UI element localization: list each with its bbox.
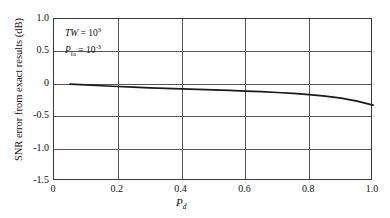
annotation-tw-mantissa: 10 — [88, 28, 98, 38]
plot-area: TW = 103 Pfa = 10-3 — [53, 18, 372, 180]
x-tick-label: 0.8 — [288, 184, 328, 194]
annotation-pfa: Pfa = 10-3 — [65, 40, 101, 60]
annotation-pfa-exponent: -3 — [95, 43, 100, 50]
chart-figure: 1.0 0.5 0 -0.5 -1.0 -1.5 0 0.2 0.4 0.6 0… — [0, 0, 390, 218]
x-axis-title-base: P — [176, 196, 183, 208]
annotation-tw: TW = 103 — [65, 23, 101, 40]
y-tick-label: -0.5 — [3, 110, 49, 120]
y-tick-label: 0.5 — [3, 45, 49, 55]
y-tick-label: -1.0 — [3, 143, 49, 153]
y-axis-tick-labels: 1.0 0.5 0 -0.5 -1.0 -1.5 — [0, 18, 49, 180]
series-line — [70, 84, 373, 105]
plot-annotations: TW = 103 Pfa = 10-3 — [65, 23, 101, 60]
x-tick-label: 0.2 — [97, 184, 137, 194]
x-axis-tick-labels: 0 0.2 0.4 0.6 0.8 1.0 — [53, 184, 372, 198]
x-tick-label: 1.0 — [352, 184, 390, 194]
annotation-tw-equals: = — [78, 28, 88, 38]
x-tick-label: 0.6 — [224, 184, 264, 194]
annotation-tw-base: TW — [65, 28, 78, 38]
x-tick-label: 0.4 — [161, 184, 201, 194]
x-axis-title: Pd — [176, 196, 186, 211]
y-axis-title: SNR error from exact results (dB) — [13, 5, 24, 175]
annotation-pfa-equals: = — [76, 45, 86, 55]
x-axis-title-subscript: d — [183, 202, 187, 211]
y-tick-label: 0 — [3, 78, 49, 88]
annotation-tw-exponent: 3 — [98, 26, 101, 33]
x-tick-label: 0 — [33, 184, 73, 194]
data-series-snr-error — [54, 19, 373, 181]
y-tick-label: 1.0 — [3, 13, 49, 23]
